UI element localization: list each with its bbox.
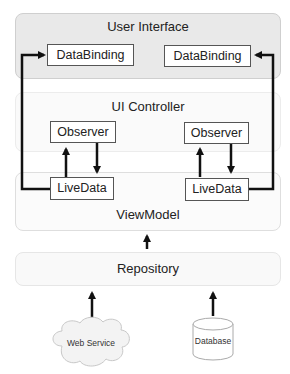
livedata-left-box: LiveData: [50, 177, 114, 200]
observer-left-box: Observer: [50, 121, 116, 143]
livedata-right-box: LiveData: [185, 178, 249, 201]
observer-right-box: Observer: [184, 122, 249, 144]
web-service-label: Web Service: [58, 338, 124, 348]
database-label: Database: [190, 336, 236, 346]
databinding-left-box: DataBinding: [47, 44, 134, 66]
databinding-right-box: DataBinding: [164, 45, 251, 67]
